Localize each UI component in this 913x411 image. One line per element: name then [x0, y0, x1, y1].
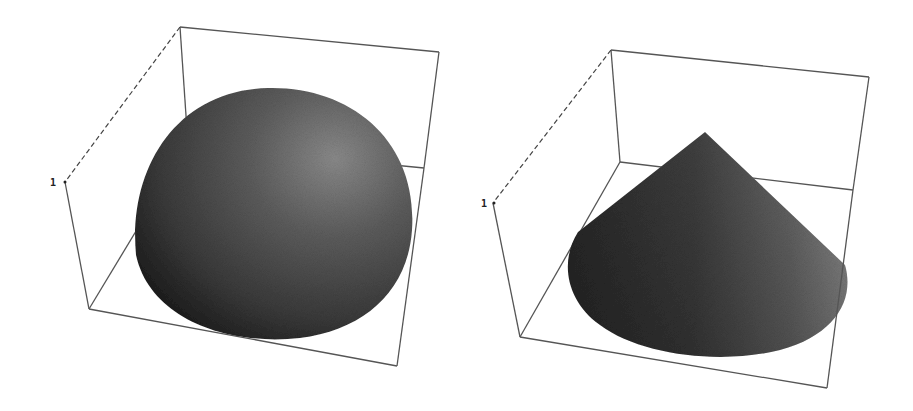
z-tick-mark	[64, 181, 67, 184]
z-tick-label: 1	[481, 198, 487, 209]
hemisphere-surface	[135, 88, 412, 339]
hemisphere-plot: 1	[50, 27, 439, 366]
z-tick-label: 1	[50, 177, 56, 188]
cone-plot: 1	[481, 50, 869, 388]
figure: 1 1	[0, 0, 913, 411]
z-tick-mark	[493, 202, 496, 205]
z-axis-dashed	[493, 50, 611, 203]
cone-surface	[568, 132, 848, 357]
